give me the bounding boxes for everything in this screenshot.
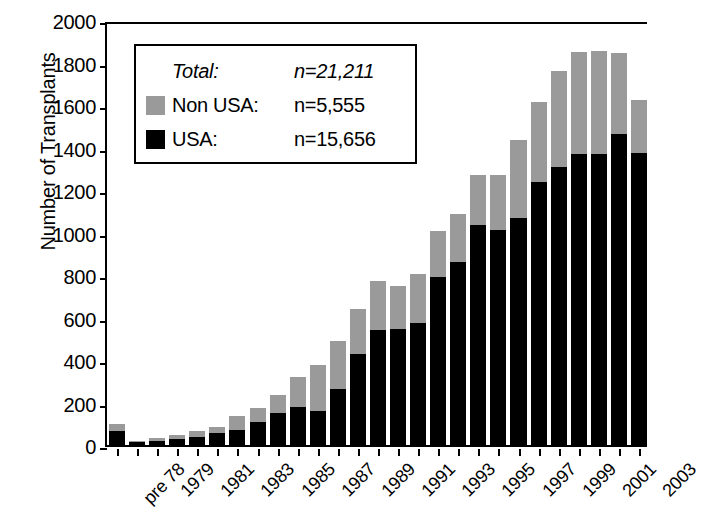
y-axis-tick [100,108,107,110]
legend-row: USA:n=15,656 [136,122,415,156]
bar-segment-usa [470,225,486,445]
bar-1993 [430,231,446,445]
x-axis-tick [338,449,340,456]
x-axis-tick-label: 1981 [217,459,259,501]
bar-pre-78 [109,424,125,445]
legend-swatch-none [146,62,165,81]
x-axis-tick [519,449,521,456]
bar-2003 [631,100,647,445]
bar-segment-non-usa [611,53,627,134]
legend-row: Total:n=21,211 [136,54,415,88]
x-axis-tick [498,449,500,456]
x-axis-tick [358,449,360,456]
bar-segment-usa [129,442,145,445]
bar-segment-non-usa [410,274,426,323]
bar-segment-non-usa [390,286,406,330]
bar-segment-usa [209,433,225,445]
x-axis-tick [398,449,400,456]
x-axis-tick-label: 1999 [578,459,620,501]
bar-segment-usa [229,430,245,445]
x-axis-tick [378,449,380,456]
legend-value: n=15,656 [294,128,376,151]
x-axis-tick [318,449,320,456]
x-axis-tick [438,449,440,456]
bar-segment-usa [250,422,266,445]
y-axis-tick [100,151,107,153]
x-axis-tick-label: 1989 [377,459,419,501]
bar-1986 [290,377,306,445]
x-axis-tick [458,449,460,456]
x-axis-tick-label: 1983 [257,459,299,501]
bar-segment-non-usa [229,416,245,430]
y-axis-tick-label: 400 [0,352,96,372]
x-axis-tick-label: 1979 [177,459,219,501]
legend-swatch-black [146,130,165,149]
legend-label: Non USA: [172,94,294,117]
bar-segment-usa [149,441,165,445]
bar-segment-usa [450,262,466,445]
bar-segment-usa [611,134,627,445]
bar-2001 [591,51,607,445]
y-axis-tick-label: 1800 [0,55,96,75]
y-axis-tick-label: 1600 [0,97,96,117]
x-axis-tick [478,449,480,456]
bar-segment-non-usa [470,175,486,225]
bar-1988 [330,341,346,445]
x-axis-tick [117,449,119,456]
x-axis-tick [559,449,561,456]
x-axis-tick [639,449,641,456]
bar-segment-non-usa [591,51,607,154]
bar-1983 [229,416,245,445]
y-axis-tick [100,278,107,280]
x-axis-tick [298,449,300,456]
bar-segment-non-usa [189,431,205,436]
bar-segment-non-usa [350,309,366,354]
x-axis-tick [217,449,219,456]
y-axis-tick [100,406,107,408]
bar-2002 [611,53,627,445]
y-axis-tick [100,23,107,25]
y-axis-tick-label: 1200 [0,182,96,202]
legend-label: Total: [172,60,294,83]
bar-1978 [129,441,145,445]
bar-segment-non-usa [149,438,165,441]
x-axis-tick-label: 1993 [458,459,500,501]
bar-segment-usa [109,431,125,445]
bar-segment-usa [571,154,587,445]
legend: Total:n=21,211Non USA:n=5,555USA:n=15,65… [134,44,417,164]
y-axis-tick [100,363,107,365]
bar-segment-usa [189,437,205,446]
y-axis-tick-label: 800 [0,267,96,287]
x-axis-tick [258,449,260,456]
bar-segment-non-usa [571,52,587,154]
bar-segment-usa [410,323,426,445]
bar-segment-non-usa [129,441,145,443]
bar-segment-non-usa [169,435,185,439]
bar-1994 [450,214,466,445]
bar-segment-non-usa [430,231,446,277]
x-axis-tick [539,449,541,456]
bar-segment-non-usa [290,377,306,407]
x-axis-tick [197,449,199,456]
x-axis-tick [177,449,179,456]
y-axis-tick [100,448,107,450]
bar-segment-usa [370,330,386,445]
x-axis-tick [619,449,621,456]
bar-1995 [470,175,486,445]
bar-segment-non-usa [490,175,506,230]
legend-row: Non USA:n=5,555 [136,88,415,122]
bar-segment-usa [591,154,607,445]
y-axis-tick-label: 1400 [0,140,96,160]
y-axis-tick-label: 600 [0,310,96,330]
bar-1985 [270,395,286,445]
x-axis-tick-label: 1995 [498,459,540,501]
bar-segment-usa [330,389,346,445]
bar-segment-usa [551,167,567,445]
bar-1980 [169,435,185,445]
x-axis-tick [579,449,581,456]
y-axis-tick [100,321,107,323]
bar-segment-non-usa [510,140,526,218]
bar-1991 [390,286,406,445]
bar-1984 [250,408,266,445]
